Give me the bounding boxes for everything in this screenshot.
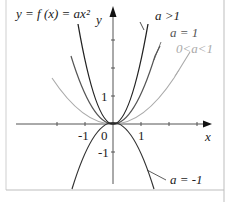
x-axis-arrow-icon: [203, 121, 212, 128]
formula-label: y = f (x) = ax²: [14, 6, 91, 21]
tick-y-pos1: 1: [101, 89, 108, 104]
y-axis-arrow-icon: [110, 6, 117, 17]
y-axis: [110, 6, 117, 184]
parabola-family-diagram: y = f (x) = ax² y x -1 0 1 1 -1 a >1 a =…: [0, 0, 228, 202]
tick-x-neg1: -1: [78, 128, 89, 143]
label-a-between-zero-one: 0<a<1: [176, 41, 213, 56]
y-axis-label: y: [94, 12, 102, 27]
tick-x-pos1: 1: [138, 128, 145, 143]
tick-origin: 0: [101, 128, 108, 143]
label-a-one: a = 1: [170, 25, 198, 40]
tick-y-neg1: -1: [98, 145, 109, 160]
label-a-neg-one: a = -1: [170, 172, 203, 187]
x-axis-label: x: [204, 129, 211, 144]
label-a-greater-one: a >1: [155, 8, 180, 23]
